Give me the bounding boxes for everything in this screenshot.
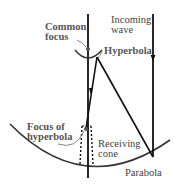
receiving-cone-left-edge (80, 126, 82, 164)
receiving-cone-label: Receiving cone (98, 139, 141, 159)
hyperbola-focus-dot (84, 127, 88, 131)
parabola-label: Parabola (125, 168, 162, 178)
receiving-cone-right-edge (91, 126, 93, 164)
incoming-wave-label: Incoming wave (111, 15, 151, 35)
focus-of-hyperbola-label: Focus of hyperbola (27, 122, 73, 142)
common-focus-label: Common focus (45, 22, 86, 42)
common-focus-dot (86, 47, 90, 51)
hyperbola-label: Hyperbola (104, 46, 152, 56)
cassegrain-diagram: Common focus Incoming wave Hyperbola Foc… (0, 0, 174, 190)
